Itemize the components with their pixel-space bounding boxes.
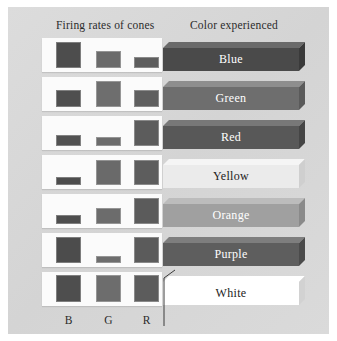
- color-bar-side-face: [299, 237, 305, 266]
- cone-firing-strip: [42, 155, 162, 189]
- color-bar-side-face: [299, 42, 305, 71]
- cone-bar-r: [134, 90, 159, 107]
- color-bar-label: Blue: [163, 48, 299, 71]
- cone-bar-r: [134, 237, 159, 263]
- color-row: Orange: [8, 194, 329, 228]
- cone-bar-g: [96, 256, 121, 263]
- color-bar-orange: Orange: [163, 198, 299, 227]
- cone-bar-b: [56, 177, 81, 185]
- cone-bar-r: [134, 198, 159, 224]
- color-bar-label: Purple: [163, 243, 299, 266]
- cone-bar-r: [134, 160, 159, 185]
- color-bar-label: Green: [163, 87, 299, 110]
- color-bar-side-face: [299, 159, 305, 188]
- color-bar-purple: Purple: [163, 237, 299, 266]
- color-bar-label: Red: [163, 126, 299, 149]
- cone-firing-strip: [42, 116, 162, 150]
- color-bar-yellow: Yellow: [163, 159, 299, 188]
- cone-bar-b: [56, 275, 81, 302]
- cone-firing-strip: [42, 233, 162, 267]
- color-bar-blue: Blue: [163, 42, 299, 71]
- color-row: Purple: [8, 233, 329, 267]
- color-bar-label: Yellow: [163, 165, 299, 188]
- color-row: Red: [8, 116, 329, 150]
- column-header-firing-rates: Firing rates of cones: [56, 19, 154, 31]
- column-header-color-experienced: Color experienced: [190, 19, 278, 31]
- figure-cone-firing-rates: Firing rates of cones Color experienced …: [0, 0, 337, 341]
- color-bar-side-face: [299, 120, 305, 149]
- color-bar-side-face: [299, 198, 305, 227]
- white-bar-pointer-line: [162, 269, 176, 327]
- color-row: Green: [8, 77, 329, 111]
- cone-firing-strip: [42, 38, 162, 72]
- cone-bar-g: [96, 137, 121, 146]
- cone-firing-strip: [42, 77, 162, 111]
- cone-bar-b: [56, 42, 81, 68]
- color-bar-side-face: [299, 81, 305, 110]
- color-bar-side-face: [299, 276, 305, 305]
- color-bar-label: White: [163, 282, 299, 305]
- cone-bar-r: [134, 57, 159, 68]
- cone-firing-strip: [42, 272, 162, 306]
- color-bar-red: Red: [163, 120, 299, 149]
- axis-label-r: R: [134, 314, 159, 326]
- color-bar-white: White: [163, 276, 299, 305]
- cone-bar-g: [96, 275, 121, 302]
- color-bar-label: Orange: [163, 204, 299, 227]
- cone-bar-b: [56, 135, 81, 146]
- color-row: Yellow: [8, 155, 329, 189]
- axis-label-b: B: [56, 314, 81, 326]
- cone-bar-b: [56, 90, 81, 107]
- cone-bar-g: [96, 81, 121, 107]
- cone-bar-r: [134, 275, 159, 302]
- cone-bar-g: [96, 160, 121, 185]
- axis-label-g: G: [96, 314, 121, 326]
- cone-bar-r: [134, 120, 159, 146]
- cone-bar-b: [56, 237, 81, 263]
- cone-bar-b: [56, 215, 81, 224]
- color-bar-green: Green: [163, 81, 299, 110]
- figure-panel: Firing rates of cones Color experienced …: [8, 7, 329, 334]
- cone-bar-g: [96, 208, 121, 224]
- cone-bar-g: [96, 51, 121, 68]
- color-row: Blue: [8, 38, 329, 72]
- cone-firing-strip: [42, 194, 162, 228]
